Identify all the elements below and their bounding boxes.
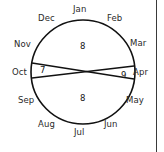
month-label-nov: Nov: [14, 40, 31, 49]
month-label-oct: Oct: [12, 68, 27, 77]
figure-canvas: 8 7 9 8 Jan Feb Mar Apr May Jun Jul Aug …: [0, 0, 164, 152]
region-label-bottom: 8: [80, 94, 85, 103]
region-label-right: 9: [121, 71, 126, 80]
region-label-top: 8: [80, 42, 85, 51]
month-label-mar: Mar: [130, 39, 146, 48]
month-label-apr: Apr: [133, 68, 148, 77]
page-right-border: [156, 0, 157, 152]
month-label-may: May: [126, 96, 144, 105]
month-label-sep: Sep: [18, 96, 34, 105]
month-label-dec: Dec: [38, 14, 55, 23]
month-label-feb: Feb: [107, 14, 122, 23]
region-label-left: 7: [40, 66, 45, 75]
month-label-jul: Jul: [74, 128, 85, 137]
month-label-aug: Aug: [38, 120, 55, 129]
month-label-jun: Jun: [104, 120, 118, 129]
month-label-jan: Jan: [73, 5, 86, 14]
